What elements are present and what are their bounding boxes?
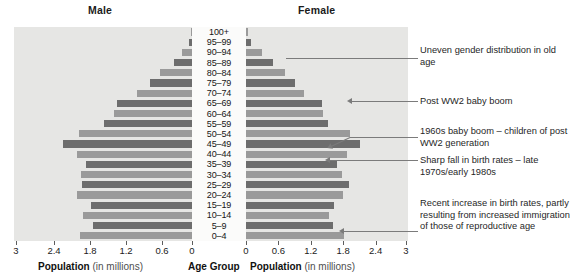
- age-group-label: 10–14: [192, 210, 246, 220]
- bar-male-25-29: [82, 181, 192, 188]
- age-group-label: 50–54: [192, 129, 246, 139]
- age-group-label: 15–19: [192, 200, 246, 210]
- annotation-birth-rate-fall: Sharp fall in birth rates – late 1970s/e…: [420, 155, 570, 178]
- bar-female-15-19: [246, 202, 334, 209]
- bar-male-65-69: [117, 100, 192, 107]
- axis-tick-label-left: 1.8: [83, 245, 96, 256]
- center-axis-title-text: Age Group: [188, 261, 240, 272]
- age-group-label: 5–9: [192, 221, 246, 231]
- age-group-label: 0–4: [192, 231, 246, 241]
- age-group-label: 75–79: [192, 78, 246, 88]
- bar-female-25-29: [246, 181, 349, 188]
- axis-tick-label-left: 2.4: [47, 245, 60, 256]
- annotation-uneven-gender: Uneven gender distribution in old age: [420, 45, 570, 68]
- bar-male-85-89: [174, 59, 192, 66]
- bar-female-80-84: [246, 69, 285, 76]
- age-group-label: 55–59: [192, 119, 246, 129]
- bar-female-10-14: [246, 212, 329, 219]
- arrowhead-recent-increase: [339, 228, 344, 234]
- bar-female-95-99: [246, 39, 251, 46]
- age-group-label: 40–44: [192, 149, 246, 159]
- age-group-label: 45–49: [192, 139, 246, 149]
- axis-tick-label-left: 0: [189, 245, 194, 256]
- bar-female-70-74: [246, 90, 304, 97]
- bar-female-35-39: [246, 161, 337, 168]
- bar-male-55-59: [104, 120, 192, 127]
- axis-tick-label-left: 1.2: [119, 245, 132, 256]
- age-group-label: 25–29: [192, 180, 246, 190]
- bar-male-0-4: [80, 232, 192, 239]
- bar-female-45-49: [246, 140, 360, 147]
- bar-female-85-89: [246, 59, 273, 66]
- age-group-label: 35–39: [192, 159, 246, 169]
- age-group-label: 85–89: [192, 58, 246, 68]
- arrowhead-post-ww2: [347, 98, 352, 104]
- bar-female-60-64: [246, 110, 323, 117]
- age-group-label: 80–84: [192, 68, 246, 78]
- bar-female-65-69: [246, 100, 322, 107]
- x-axis: 32.41.81.20.6000.61.21.82.43: [0, 241, 573, 259]
- axis-tick-label-left: 0.6: [155, 245, 168, 256]
- age-group-label: 95–99: [192, 37, 246, 47]
- age-group-label: 100+: [192, 27, 246, 37]
- left-axis-title: Population (in millions): [38, 261, 143, 272]
- population-pyramid-figure: Male Female 100+95–9990–9485–8980–8475–7…: [0, 0, 573, 280]
- bar-male-20-24: [77, 191, 192, 198]
- age-group-label: 65–69: [192, 98, 246, 108]
- bar-female-75-79: [246, 79, 295, 86]
- bar-male-90-94: [182, 49, 192, 56]
- bar-male-35-39: [86, 161, 192, 168]
- female-column-header: Female: [298, 4, 335, 16]
- axis-tick-label-left: 3: [13, 245, 18, 256]
- bar-female-20-24: [246, 191, 343, 198]
- bar-female-0-4: [246, 232, 344, 239]
- right-axis-title-rest: (in millions): [302, 261, 355, 272]
- bar-male-40-44: [77, 151, 192, 158]
- age-group-label: 60–64: [192, 109, 246, 119]
- bar-male-80-84: [160, 69, 192, 76]
- bar-female-50-54: [246, 130, 350, 137]
- bar-female-90-94: [246, 49, 262, 56]
- annotation-post-ww2: Post WW2 baby boom: [420, 96, 570, 108]
- leader-1960s-boom: [350, 137, 418, 138]
- axis-tick-label-right: 2.4: [369, 245, 382, 256]
- male-column-header: Male: [88, 4, 112, 16]
- axis-tick-label-right: 1.2: [304, 245, 317, 256]
- center-axis-title: Age Group: [188, 261, 240, 272]
- axis-tick-label-right: 1.8: [337, 245, 350, 256]
- axis-tick-label-right: 3: [403, 245, 408, 256]
- annotation-1960s-baby-boom: 1960s baby boom – children of post WW2 g…: [420, 126, 570, 149]
- bar-male-5-9: [93, 222, 192, 229]
- age-group-label: 30–34: [192, 170, 246, 180]
- bar-male-30-34: [81, 171, 192, 178]
- right-axis-title-bold: Population: [250, 261, 302, 272]
- leader-uneven-gender: [286, 58, 418, 59]
- bar-female-40-44: [246, 151, 347, 158]
- leader-recent-increase: [344, 231, 418, 232]
- age-group-label: 90–94: [192, 47, 246, 57]
- bar-female-30-34: [246, 171, 342, 178]
- bar-female-100+: [246, 28, 248, 35]
- left-axis-title-rest: (in millions): [90, 261, 143, 272]
- age-group-label: 70–74: [192, 88, 246, 98]
- axis-tick-label-right: 0.6: [272, 245, 285, 256]
- left-axis-title-bold: Population: [38, 261, 90, 272]
- bar-male-45-49: [63, 140, 192, 147]
- bar-female-5-9: [246, 222, 333, 229]
- leader-post-ww2: [352, 101, 418, 102]
- age-group-label: 20–24: [192, 190, 246, 200]
- bar-male-75-79: [150, 79, 192, 86]
- arrowhead-birth-rate-fall: [325, 157, 330, 163]
- bar-male-60-64: [114, 110, 192, 117]
- bar-male-50-54: [79, 130, 192, 137]
- axis-tick-label-right: 0: [243, 245, 248, 256]
- bar-male-15-19: [91, 202, 192, 209]
- bar-female-55-59: [246, 120, 328, 127]
- leader-birth-rate-fall: [330, 160, 418, 161]
- bar-male-70-74: [137, 90, 192, 97]
- annotation-recent-increase: Recent increase in birth rates, partly r…: [420, 198, 570, 233]
- right-axis-title: Population (in millions): [250, 261, 355, 272]
- chart-plot-area: 100+95–9990–9485–8980–8475–7970–7465–696…: [14, 27, 408, 241]
- bar-male-10-14: [83, 212, 192, 219]
